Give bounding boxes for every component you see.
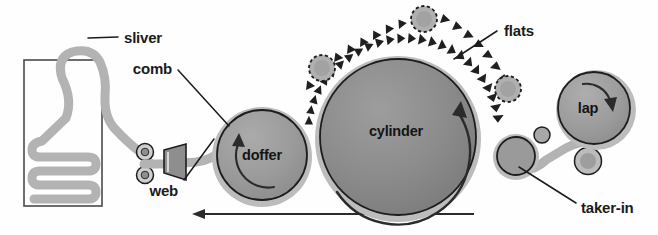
comb-label: comb xyxy=(133,60,172,77)
flats-label: flats xyxy=(504,22,534,39)
carding-machine-diagram: doffer cylinder xyxy=(0,0,658,235)
flats-pulley-right xyxy=(495,76,521,102)
taker-in xyxy=(493,134,539,180)
small-roller-below-lap xyxy=(575,148,602,175)
leader-sliver xyxy=(88,37,118,38)
lap: lap xyxy=(556,70,636,150)
flats-pulley-top xyxy=(411,6,437,32)
sliver-label: sliver xyxy=(124,29,162,46)
doffer: doffer xyxy=(212,107,312,207)
web-label: web xyxy=(148,182,178,199)
feed-roller-upper xyxy=(137,144,154,161)
comb-part xyxy=(164,144,186,180)
cylinder-label: cylinder xyxy=(369,123,424,139)
small-roller-above-takerin xyxy=(534,127,550,143)
lap-label: lap xyxy=(578,100,599,116)
diagram-canvas: doffer cylinder xyxy=(0,0,658,235)
doffer-label: doffer xyxy=(242,147,282,163)
taker-in-label: taker-in xyxy=(581,199,634,216)
feed-roller-lower xyxy=(137,167,154,184)
flats-pulley-left xyxy=(309,55,335,81)
